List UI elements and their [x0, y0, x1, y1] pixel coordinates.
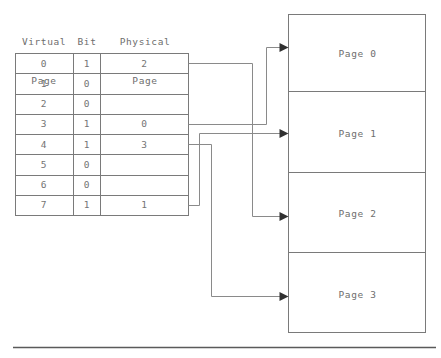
frame-label-page-2: Page 2 [289, 208, 426, 219]
cell-virtual-page: 6 [15, 179, 73, 190]
cell-physical-page: 1 [101, 199, 188, 210]
cell-virtual-page: 0 [15, 58, 73, 69]
cell-virtual-page: 5 [15, 159, 73, 170]
cell-virtual-page: 2 [15, 98, 73, 109]
cell-bit: 1 [74, 58, 100, 69]
arrowhead-to-page2 [280, 212, 289, 221]
header-physical-page-line1: Physical [107, 35, 183, 48]
connector-vp3-to-page0 [189, 48, 285, 125]
arrowhead-to-page1 [280, 129, 289, 138]
physical-memory-border [289, 15, 426, 333]
header-bit: Bit [68, 35, 106, 48]
frame-label-page-1: Page 1 [289, 128, 426, 139]
cell-virtual-page: 3 [15, 118, 73, 129]
cell-physical-page: 3 [101, 139, 188, 150]
connector-vp0-to-page2 [189, 64, 285, 217]
cell-physical-page: 0 [101, 118, 188, 129]
cell-virtual-page: 1 [15, 78, 73, 89]
frame-label-page-0: Page 0 [289, 48, 426, 59]
arrowhead-to-page3 [280, 292, 289, 301]
cell-bit: 1 [74, 118, 100, 129]
cell-virtual-page: 4 [15, 139, 73, 150]
paging-diagram: Virtual Page Bit Physical Page 0 1 2 1 0… [0, 0, 441, 358]
connector-vp4-to-page3 [189, 145, 285, 297]
header-physical-page-line2: Page [107, 74, 183, 87]
cell-virtual-page: 7 [15, 199, 73, 210]
cell-bit: 0 [74, 78, 100, 89]
cell-bit: 1 [74, 199, 100, 210]
cell-bit: 0 [74, 98, 100, 109]
cell-bit: 0 [74, 179, 100, 190]
cell-bit: 0 [74, 159, 100, 170]
cell-physical-page: 2 [101, 58, 188, 69]
arrowhead-to-page0 [280, 43, 289, 52]
frame-label-page-3: Page 3 [289, 289, 426, 300]
cell-bit: 1 [74, 139, 100, 150]
